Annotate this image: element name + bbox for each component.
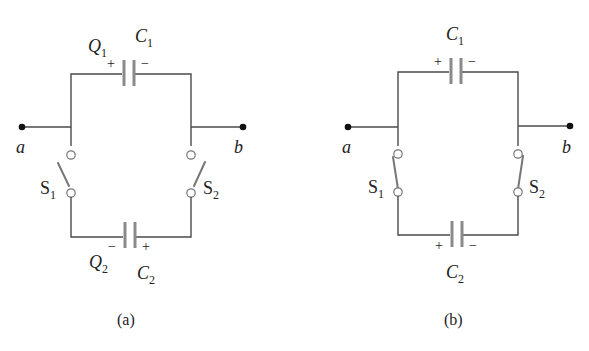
switch-s2-contact-top [514,150,522,158]
label-q1: Q1 [88,36,107,60]
label-terminal-a: a [16,137,25,157]
panel-b: C1 + − a b S1 S2 + − C2 (b) [342,24,573,329]
switch-s1-contact-bottom [67,189,75,197]
terminal-b-dot [240,124,247,131]
sign-c1-left: + [434,54,442,69]
label-s2: S2 [529,177,545,201]
sign-c2-right: + [142,239,150,254]
switch-s1-contact-top [67,151,75,159]
terminal-a-dot [345,124,352,131]
sign-c1-left: + [107,56,115,71]
wire-bottom-right [463,196,518,235]
sign-c1-right: − [141,56,149,71]
label-terminal-a: a [342,137,351,157]
wire-top-right [135,74,191,146]
wire-top-left [398,72,449,146]
terminal-a-dot [19,124,26,131]
terminal-b-dot [567,123,574,130]
switch-s1-blade [393,157,398,189]
label-c1: C1 [446,24,464,48]
sign-c1-right: − [468,54,476,69]
label-s2: S2 [203,178,219,202]
caption-b: (b) [444,311,463,329]
label-terminal-b: b [234,137,243,157]
wire-top-left [71,74,122,146]
wire-bottom-left [398,196,450,235]
label-s1: S1 [40,178,56,202]
switch-s1-contact-top [394,150,402,158]
wire-top-right [462,72,518,146]
caption-a: (a) [117,311,135,329]
circuit-figure: Q1 C1 + − a b S1 S2 − + Q2 C2 (a) C [0,0,589,351]
label-c2: C2 [446,262,464,286]
label-q2: Q2 [89,252,108,276]
sign-c2-left: − [108,239,116,254]
switch-s2-contact-bottom [514,188,522,196]
sign-c2-right: − [469,238,477,253]
switch-s2-contact-bottom [187,189,195,197]
wire-bottom-left [71,197,123,237]
sign-c2-left: + [435,238,443,253]
label-c2: C2 [137,263,155,287]
switch-s1-contact-bottom [394,188,402,196]
label-terminal-b: b [562,137,571,157]
label-s1: S1 [368,177,384,201]
panel-a: Q1 C1 + − a b S1 S2 − + Q2 C2 (a) [16,26,246,329]
switch-s2-contact-top [187,151,195,159]
label-c1: C1 [135,26,153,50]
switch-s2-blade [518,156,523,189]
wire-bottom-right [136,197,191,237]
switch-s1-blade [58,163,69,186]
